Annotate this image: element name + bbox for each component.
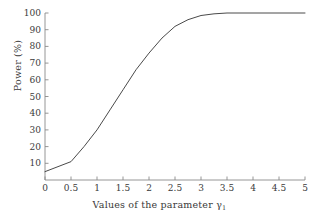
x-tick-label: 0.5 — [64, 183, 78, 193]
y-tick-label: 60 — [30, 75, 41, 85]
y-tick-label: 30 — [30, 125, 41, 135]
x-axis-label: Values of the parameter γ1 — [0, 199, 319, 212]
x-tick-label: 4 — [250, 183, 256, 193]
x-axis-label-text: Values of the parameter γ — [93, 199, 222, 210]
y-tick-label: 70 — [30, 58, 41, 68]
y-tick-label: 90 — [30, 25, 41, 35]
x-tick-label: 3.5 — [220, 183, 234, 193]
x-tick-label: 2 — [146, 183, 152, 193]
x-tick-label: 5 — [302, 183, 308, 193]
power-curve-figure: Power (%) Values of the parameter γ1 102… — [0, 0, 319, 223]
plot-area: 102030405060708090100 00.511.522.533.544… — [45, 13, 305, 180]
x-tick-label: 3 — [198, 183, 204, 193]
y-axis-label: Power (%) — [12, 21, 23, 111]
x-axis-label-subscript: 1 — [222, 204, 226, 212]
chart-svg — [45, 13, 305, 180]
x-tick-label: 2.5 — [168, 183, 182, 193]
x-tick-label: 1.5 — [116, 183, 130, 193]
y-tick-label: 10 — [30, 158, 41, 168]
y-tick-label: 80 — [30, 41, 41, 51]
y-tick-label: 100 — [24, 8, 41, 18]
y-tick-label: 20 — [30, 142, 41, 152]
y-tick-label: 50 — [30, 92, 41, 102]
axis-lines — [45, 13, 305, 180]
x-tick-label: 0 — [42, 183, 48, 193]
y-tick-label: 40 — [30, 108, 41, 118]
data-line-power — [45, 13, 305, 172]
x-tick-label: 1 — [94, 183, 100, 193]
tick-marks — [45, 13, 305, 180]
x-tick-label: 4.5 — [272, 183, 286, 193]
